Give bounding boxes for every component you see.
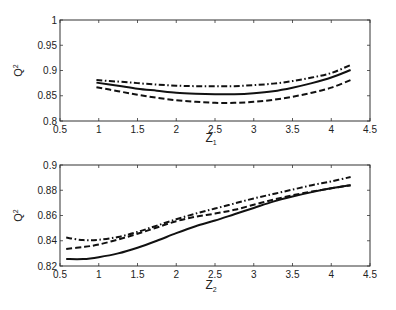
y-tick-label: 0.95 [38, 40, 58, 51]
y-tick-label: 0.8 [43, 116, 57, 127]
x-tick-label: 1.5 [131, 124, 145, 135]
x-tick-label: 1 [96, 124, 102, 135]
y-axis-label: Q2 [12, 64, 24, 77]
y-tick-label: 0.9 [43, 65, 57, 76]
x-tick-label: 4 [328, 124, 334, 135]
x-tick-label: 1 [96, 269, 102, 280]
top-plot: 0.511.522.533.544.50.80.850.90.951Z1Q2 [12, 15, 377, 147]
y-tick-label: 0.88 [38, 185, 58, 196]
x-tick-label: 4.5 [363, 269, 377, 280]
x-tick-label: 2 [173, 124, 179, 135]
x-tick-label: 3 [251, 124, 257, 135]
series-line-dash-dot [66, 177, 350, 240]
axes-frame [60, 165, 370, 266]
figure: 0.511.522.533.544.50.80.850.90.951Z1Q2 0… [0, 0, 396, 310]
y-tick-label: 0.9 [43, 160, 57, 171]
x-axis-label: Z2 [205, 278, 216, 293]
x-tick-label: 3 [251, 269, 257, 280]
bottom-plot: 0.511.522.533.544.50.820.840.860.880.9Z2… [12, 160, 377, 294]
y-tick-label: 1 [51, 15, 57, 26]
x-tick-label: 3.5 [286, 124, 300, 135]
x-tick-label: 1.5 [131, 269, 145, 280]
y-axis-label: Q2 [12, 209, 24, 222]
y-tick-label: 0.84 [38, 235, 58, 246]
x-tick-label: 4 [328, 269, 334, 280]
x-tick-label: 4.5 [363, 124, 377, 135]
y-tick-label: 0.82 [38, 261, 58, 272]
series-line-solid [66, 185, 350, 259]
x-tick-label: 2 [173, 269, 179, 280]
x-tick-label: 3.5 [286, 269, 300, 280]
y-tick-label: 0.85 [38, 90, 58, 101]
axes-frame [60, 20, 370, 121]
y-tick-label: 0.86 [38, 210, 58, 221]
